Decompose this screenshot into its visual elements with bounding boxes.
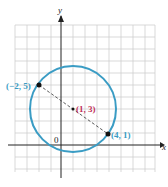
point-4-1 [106,132,111,137]
x-axis-label: x [161,142,166,152]
y-axis-label: y [57,5,62,15]
origin-label: 0 [54,135,59,145]
circle-diagram: x y 0 (−2, 5) (4, 1) (1, 3) [0,0,168,187]
label-4-1: (4, 1) [111,130,131,140]
label-center: (1, 3) [76,104,96,114]
point-neg2-5 [37,83,42,88]
center-point [72,108,75,111]
label-neg2-5: (−2, 5) [6,81,31,91]
